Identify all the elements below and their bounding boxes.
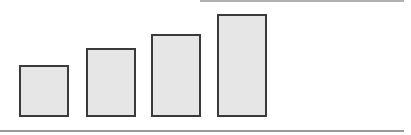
- bottom-rule: [0, 130, 404, 132]
- bar-4: [217, 14, 267, 117]
- top-rule: [200, 0, 404, 2]
- bar-2: [86, 48, 136, 117]
- bar-1: [19, 65, 69, 117]
- bar-3: [151, 34, 201, 117]
